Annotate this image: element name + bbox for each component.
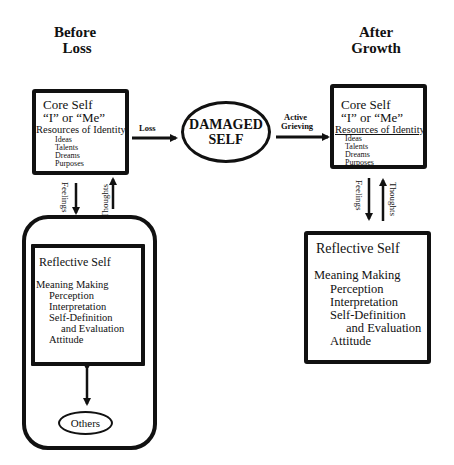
core-self-before-box: Core Self “I” or “Me” Resources of Ident…: [32, 89, 129, 175]
resource-item: Purposes: [55, 160, 84, 169]
meaning-item: Perception: [49, 290, 94, 301]
reflective-self-title: Reflective Self: [39, 256, 111, 269]
thoughts-label-left: Thoughts: [100, 184, 110, 218]
meaning-item: Interpretation: [49, 301, 106, 312]
meaning-making-label: Meaning Making: [36, 279, 109, 290]
others-ellipse: Others: [58, 411, 113, 435]
damaged-self-ellipse: DAMAGED SELF: [181, 101, 271, 163]
feelings-label-left: Feelings: [60, 182, 70, 213]
resources-of-identity-label: Resources of Identity: [36, 124, 126, 135]
meaning-item: Attitude: [330, 335, 371, 349]
meaning-item: and Evaluation: [61, 323, 124, 334]
others-label: Others: [71, 417, 100, 429]
meaning-item: Self-Definition: [49, 312, 113, 323]
core-self-subtitle: “I” or “Me”: [341, 111, 403, 124]
thoughts-label-right: Thoughts: [388, 182, 398, 216]
damaged-self-label: DAMAGED SELF: [189, 117, 263, 147]
resource-item: Purposes: [345, 159, 374, 168]
reflective-self-before-box: Reflective Self Meaning Making Perceptio…: [31, 244, 145, 366]
core-self-after-box: Core Self “I” or “Me” Resources of Ident…: [330, 84, 427, 169]
feelings-label-right: Feelings: [354, 180, 364, 211]
loss-label: Loss: [139, 124, 156, 133]
meaning-making-label: Meaning Making: [314, 269, 400, 283]
meaning-item: Attitude: [49, 334, 83, 345]
reflective-self-title: Reflective Self: [316, 241, 400, 256]
reflective-self-after-box: Reflective Self Meaning Making Perceptio…: [304, 231, 431, 364]
core-self-subtitle: “I” or “Me”: [43, 111, 105, 124]
active-grieving-label: Active Grieving: [281, 113, 313, 131]
